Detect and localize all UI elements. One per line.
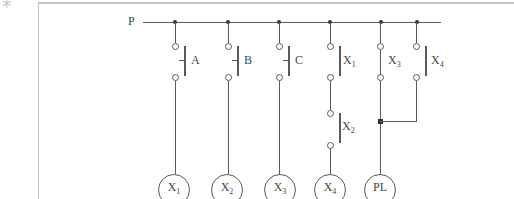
contact-label-x3-sub: 3 xyxy=(397,60,401,69)
branch4-drop-wire xyxy=(330,22,331,43)
contact-blade xyxy=(184,46,186,76)
contact-terminal xyxy=(225,43,232,50)
branch6-drop-wire xyxy=(416,22,417,43)
contact-terminal xyxy=(327,74,334,81)
contact-label-x1: X1 xyxy=(343,54,356,71)
contact-label-x3: X3 xyxy=(388,54,401,71)
contact-terminal xyxy=(276,74,283,81)
contact-label-x3-base: X xyxy=(388,53,397,67)
contact-label-a: A xyxy=(191,54,200,71)
coil-label-x1: X1 xyxy=(168,181,181,198)
coil-label-x3-sub: 3 xyxy=(282,188,286,197)
coil-label-x4-sub: 4 xyxy=(332,188,336,197)
page-border xyxy=(38,2,514,199)
contact-terminal xyxy=(327,110,334,117)
contact-label-x2-base: X xyxy=(342,119,351,133)
contact-terminal xyxy=(327,142,334,149)
branch3-coil-wire xyxy=(279,81,280,174)
coil-x2: X2 xyxy=(211,174,243,199)
contact-tick xyxy=(283,60,288,61)
coil-x3: X3 xyxy=(264,174,296,199)
branch2-drop-wire xyxy=(228,22,229,43)
bus-line xyxy=(143,22,441,23)
contact-label-x2: X2 xyxy=(342,120,355,137)
bus-label: P xyxy=(128,15,135,28)
branch5-drop-wire xyxy=(380,22,381,43)
coil-label-pl: PL xyxy=(373,181,387,198)
coil-x1: X1 xyxy=(158,174,190,199)
contact-closed-link xyxy=(380,50,381,75)
branch4-mid-wire xyxy=(330,81,331,111)
contact-terminal xyxy=(225,74,232,81)
coil-label-x2: X2 xyxy=(221,181,234,198)
coil-label-x4: X4 xyxy=(324,181,337,198)
contact-label-x1-base: X xyxy=(343,53,352,67)
contact-terminal xyxy=(276,43,283,50)
contact-label-x4-sub: 4 xyxy=(440,60,444,69)
contact-tick xyxy=(179,60,184,61)
contact-terminal xyxy=(377,74,384,81)
branch4-coil-wire xyxy=(330,149,331,174)
contact-terminal xyxy=(327,43,334,50)
contact-label-a-base: A xyxy=(191,53,200,67)
contact-terminal xyxy=(377,43,384,50)
branch1-drop-wire xyxy=(175,22,176,43)
contact-terminal xyxy=(172,43,179,50)
contact-blade xyxy=(425,46,427,76)
contact-blade xyxy=(288,46,290,76)
contact-terminal xyxy=(413,43,420,50)
coil-x4: X4 xyxy=(314,174,346,199)
contact-label-x2-sub: 2 xyxy=(351,126,355,135)
branch5-coil-wire xyxy=(380,81,381,174)
contact-blade xyxy=(339,46,341,76)
corner-asterisk-icon: * xyxy=(2,0,12,16)
contact-label-c: C xyxy=(295,54,303,71)
contact-tick xyxy=(232,60,237,61)
branch3-drop-wire xyxy=(279,22,280,43)
junction-wire xyxy=(380,121,417,122)
contact-blade xyxy=(237,46,239,76)
contact-terminal xyxy=(413,74,420,81)
branch1-coil-wire xyxy=(175,81,176,174)
contact-label-x4: X4 xyxy=(431,54,444,71)
contact-terminal xyxy=(172,74,179,81)
coil-label-x3: X3 xyxy=(274,181,287,198)
branch2-coil-wire xyxy=(228,81,229,174)
contact-label-x1-sub: 1 xyxy=(352,60,356,69)
coil-label-pl-base: PL xyxy=(373,180,387,194)
coil-pl: PL xyxy=(364,174,396,199)
coil-label-x2-sub: 2 xyxy=(229,188,233,197)
contact-label-x4-base: X xyxy=(431,53,440,67)
contact-blade xyxy=(339,113,341,143)
scanned-page: * P A X1 B X2 C X3 X1 X2 X4 X3 xyxy=(0,0,514,199)
contact-label-b-base: B xyxy=(244,53,252,67)
contact-label-b: B xyxy=(244,54,252,71)
contact-label-c-base: C xyxy=(295,53,303,67)
coil-label-x1-sub: 1 xyxy=(176,188,180,197)
branch6-down-wire xyxy=(416,81,417,122)
